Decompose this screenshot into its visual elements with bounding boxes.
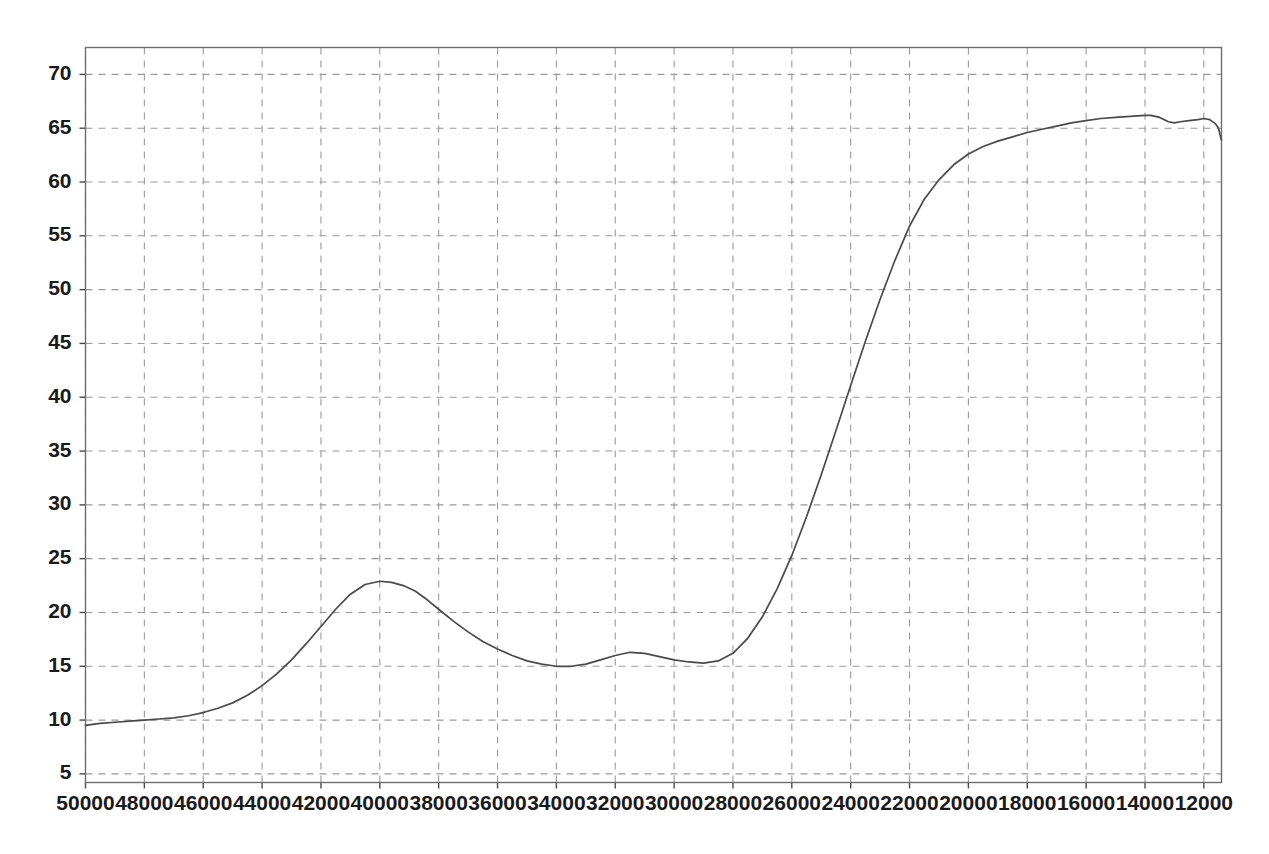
y-tick-label: 70 bbox=[48, 61, 71, 84]
y-tick-label: 35 bbox=[48, 438, 72, 461]
x-tick-label: 22000 bbox=[880, 791, 938, 814]
x-tick-label: 50000 bbox=[56, 791, 114, 814]
y-tick-label: 45 bbox=[48, 330, 72, 353]
x-tick-label: 26000 bbox=[763, 791, 821, 814]
x-tick-label: 30000 bbox=[645, 791, 703, 814]
x-tick-label: 44000 bbox=[233, 791, 291, 814]
x-tick-label: 32000 bbox=[586, 791, 644, 814]
x-tick-label: 38000 bbox=[409, 791, 467, 814]
y-tick-label: 40 bbox=[48, 384, 71, 407]
y-tick-label: 60 bbox=[48, 169, 71, 192]
y-tick-label: 15 bbox=[48, 653, 72, 676]
x-axis-tick-labels: 5000048000460004400042000400003800036000… bbox=[56, 791, 1233, 814]
x-tick-label: 28000 bbox=[704, 791, 762, 814]
x-tick-label: 14000 bbox=[1116, 791, 1174, 814]
x-tick-label: 24000 bbox=[821, 791, 879, 814]
x-tick-label: 46000 bbox=[174, 791, 232, 814]
x-tick-label: 48000 bbox=[115, 791, 173, 814]
y-tick-label: 50 bbox=[48, 276, 71, 299]
x-tick-label: 16000 bbox=[1057, 791, 1115, 814]
x-tick-label: 36000 bbox=[468, 791, 526, 814]
y-tick-label: 20 bbox=[48, 599, 71, 622]
x-tick-label: 18000 bbox=[998, 791, 1056, 814]
y-tick-label: 65 bbox=[48, 115, 72, 138]
y-tick-label: 30 bbox=[48, 491, 71, 514]
chart-canvas: 5000048000460004400042000400003800036000… bbox=[0, 0, 1269, 854]
x-tick-label: 42000 bbox=[292, 791, 350, 814]
x-tick-label: 12000 bbox=[1175, 791, 1233, 814]
spectrum-chart: 5000048000460004400042000400003800036000… bbox=[0, 0, 1269, 854]
x-tick-label: 40000 bbox=[351, 791, 409, 814]
y-tick-label: 55 bbox=[48, 222, 72, 245]
y-tick-label: 25 bbox=[48, 545, 72, 568]
x-tick-label: 20000 bbox=[939, 791, 997, 814]
y-tick-label: 5 bbox=[60, 760, 72, 783]
x-tick-label: 34000 bbox=[527, 791, 585, 814]
y-tick-label: 10 bbox=[48, 707, 71, 730]
